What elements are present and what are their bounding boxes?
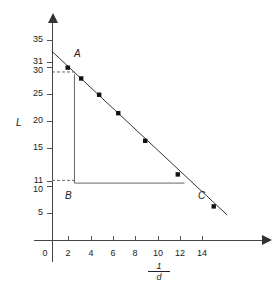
annotation-label-c: C <box>198 190 205 201</box>
plot-area <box>0 0 278 291</box>
annotation-label-b: B <box>65 190 72 201</box>
chart-container: 35 31 30 25 20 15 11 10 5 0 2 4 6 8 10 1… <box>0 0 278 291</box>
data-points <box>66 65 216 208</box>
construction-guides <box>52 72 185 183</box>
annotation-label-a: A <box>74 48 81 59</box>
